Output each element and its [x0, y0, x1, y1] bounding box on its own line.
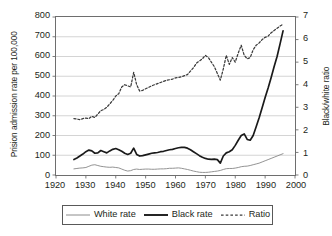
plot-area [55, 16, 296, 176]
y-axis-left-tick-label: 800 [10, 11, 50, 20]
y-axis-left-tick-label: 300 [10, 111, 50, 120]
y-axis-left-tick-label: 700 [10, 31, 50, 40]
y-axis-left-tick-label: 500 [10, 71, 50, 80]
legend-swatch-solid-thick [143, 211, 169, 219]
y-axis-left-tick-label: 400 [10, 91, 50, 100]
legend-entry: White rate [65, 210, 136, 219]
legend-label: White rate [94, 210, 136, 219]
y-axis-right-tick-label: 5 [303, 57, 327, 66]
legend-entry: Black rate [143, 210, 213, 219]
legend-swatch-solid-thin [65, 211, 91, 219]
x-axis-tick-label: 2000 [276, 181, 316, 190]
y-axis-right-tick-label: 3 [303, 103, 327, 112]
legend-entry: Ratio [220, 210, 270, 219]
y-axis-right-tick-label: 7 [303, 11, 327, 20]
y-axis-right-tick-label: 6 [303, 34, 327, 43]
chart-legend: White rateBlack rateRatio [62, 205, 273, 225]
legend-label: Black rate [172, 210, 213, 219]
y-axis-left-tick-label: 200 [10, 131, 50, 140]
legend-label: Ratio [249, 210, 270, 219]
series-line-ratio [74, 24, 283, 119]
data-series-layer [56, 17, 295, 175]
y-axis-right-tick-label: 2 [303, 126, 327, 135]
y-axis-right-tick-label: 1 [303, 149, 327, 158]
series-line-black-rate [74, 31, 283, 163]
legend-swatch-dashed [220, 211, 246, 219]
y-axis-left-tick-label: 100 [10, 151, 50, 160]
series-line-white-rate [74, 154, 283, 173]
y-axis-right-tick-label: 0 [303, 171, 327, 180]
y-axis-left-tick-label: 0 [10, 171, 50, 180]
y-axis-left-tick-label: 600 [10, 51, 50, 60]
chart-figure: Prision admission rate per 100,000 Black… [0, 0, 332, 236]
y-axis-right-tick-label: 4 [303, 80, 327, 89]
